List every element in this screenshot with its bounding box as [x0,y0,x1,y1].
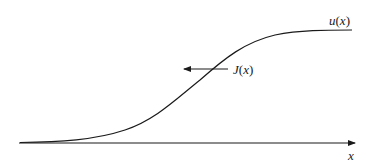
curve-label-u: u(x) [329,13,350,28]
diagram-canvas: u(x) J(x) x [0,0,370,168]
axis-label-x: x [347,148,354,163]
diagram-svg: u(x) J(x) x [0,0,370,168]
flux-label-j: J(x) [233,62,253,77]
sigmoid-curve-u [20,30,352,143]
